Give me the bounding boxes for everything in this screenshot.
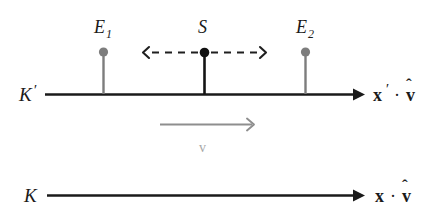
event-1-dot	[99, 47, 108, 56]
rest-axis-label-v-hat-base: v	[402, 186, 411, 206]
source-label: S	[198, 17, 207, 37]
marker-source: S	[198, 17, 209, 94]
rest-frame-group: K x · ˆ v	[23, 176, 411, 206]
marker-event-2: E 2	[295, 17, 314, 94]
event-2-label: E	[295, 17, 307, 37]
rest-axis-label-x-base: x	[375, 186, 384, 206]
frame-label-k-prime: K ′	[18, 82, 37, 105]
marker-event-1: E 1	[93, 17, 112, 94]
velocity-label: v	[199, 140, 206, 155]
source-dot	[200, 48, 210, 58]
frame-label-k: K	[23, 185, 38, 206]
axis-label-v-hat-base: v	[406, 85, 415, 105]
frame-label-k-prime-letter: K	[18, 84, 33, 105]
moving-frame-group: K ′ x ′ · ˆ v E 1	[18, 17, 415, 155]
moving-frame-axis-label: x ′ · ˆ v	[373, 75, 415, 105]
axis-label-x-prime-base: x	[373, 85, 382, 105]
diagram-root: K ′ x ′ · ˆ v E 1	[0, 0, 445, 221]
light-signal-right-arrowhead	[260, 47, 266, 58]
axis-label-dot-operator: ·	[394, 85, 400, 105]
event-2-dot	[301, 47, 310, 56]
moving-frame-axis-arrowhead	[353, 89, 365, 101]
event-2-label-subscript: 2	[308, 27, 314, 41]
rest-axis-label-dot-operator: ·	[390, 186, 396, 206]
event-1-label: E	[93, 17, 105, 37]
axis-label-x-prime-mark: ′	[385, 81, 389, 97]
rest-frame-axis-arrowhead	[353, 190, 365, 202]
frame-label-k-letter: K	[23, 185, 38, 206]
rest-frame-axis-label: x · ˆ v	[375, 176, 411, 206]
event-1-label-subscript: 1	[106, 27, 112, 41]
light-signal-left-arrowhead	[143, 47, 149, 58]
frame-label-k-prime-mark: ′	[33, 82, 37, 98]
velocity-indicator: v	[160, 119, 254, 156]
spacetime-frames-figure: K ′ x ′ · ˆ v E 1	[0, 0, 445, 221]
